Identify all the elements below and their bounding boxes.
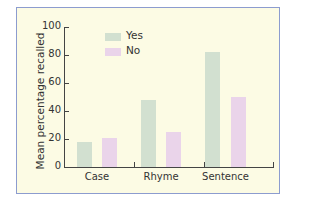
y-tick-label: 100 xyxy=(39,20,61,31)
category-label: Sentence xyxy=(196,171,256,182)
x-axis xyxy=(64,167,274,168)
y-tick-label: 60 xyxy=(39,76,61,87)
y-tick-mark xyxy=(64,55,69,56)
legend-label-no: No xyxy=(126,44,140,56)
y-tick-mark xyxy=(64,27,69,28)
x-tick-mark xyxy=(134,162,135,167)
bar-rhyme-yes xyxy=(141,100,156,167)
bar-case-no xyxy=(102,138,117,167)
legend-label-yes: Yes xyxy=(126,29,143,41)
y-axis xyxy=(64,27,65,168)
legend-swatch-no xyxy=(105,48,121,56)
y-tick-label: 40 xyxy=(39,104,61,115)
bar-case-yes xyxy=(77,142,92,167)
x-tick-mark xyxy=(273,162,274,167)
y-tick-label: 0 xyxy=(39,160,61,171)
bar-sentence-no xyxy=(231,97,246,167)
y-tick-label: 20 xyxy=(39,132,61,143)
legend-swatch-yes xyxy=(105,33,121,41)
category-label: Case xyxy=(67,171,127,182)
bar-sentence-yes xyxy=(205,52,220,167)
y-tick-mark xyxy=(64,83,69,84)
y-tick-mark xyxy=(64,111,69,112)
bar-rhyme-no xyxy=(166,132,181,167)
y-tick-mark xyxy=(64,139,69,140)
category-label: Rhyme xyxy=(131,171,191,182)
y-tick-label: 80 xyxy=(39,48,61,59)
y-tick-mark xyxy=(64,167,69,168)
